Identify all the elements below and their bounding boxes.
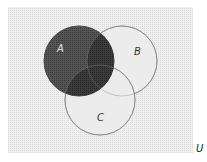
universe-label: U [196,143,204,154]
set-a-label: A [56,43,64,54]
venn-diagram: A B C U [0,0,207,162]
set-c-label: C [97,112,104,123]
set-b-label: B [134,46,141,57]
